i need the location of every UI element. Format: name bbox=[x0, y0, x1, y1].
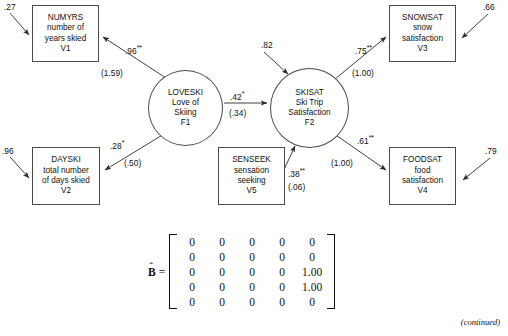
beta-matrix-equation: ˆB = 000000000000001.0000001.0000000 bbox=[148, 234, 335, 309]
estimate-value: .96 bbox=[125, 46, 137, 56]
matrix-cell-r4-c1: 0 bbox=[177, 279, 207, 294]
node-snowsat-desc1: snow bbox=[413, 23, 432, 33]
node-snowsat: SNOWSAT snow satisfaction V3 bbox=[389, 5, 456, 62]
significance-stars: * bbox=[122, 138, 125, 147]
hat-accent: ˆ bbox=[150, 261, 153, 272]
equals-sign: = bbox=[159, 266, 166, 278]
matrix-bracket-right bbox=[327, 234, 335, 309]
arrow-residual-dayski bbox=[10, 157, 29, 178]
path-label-senseek-to-skisat-se: (.06) bbox=[288, 182, 305, 192]
node-senseek-desc2: seeking bbox=[237, 176, 265, 186]
estimate-value: .42 bbox=[230, 92, 242, 102]
node-foodsat-desc2: satisfaction bbox=[402, 176, 443, 186]
matrix-cell-r5-c1: 0 bbox=[177, 294, 207, 309]
path-label-loveski-to-dayski-estimate: .28* bbox=[110, 138, 124, 151]
matrix-cell-r5-c2: 0 bbox=[207, 294, 237, 309]
path-label-loveski-to-skisat-estimate: .42* bbox=[230, 89, 244, 102]
matrix-row: 00000 bbox=[177, 294, 327, 309]
matrix-cell-r5-c3: 0 bbox=[237, 294, 267, 309]
significance-stars: ** bbox=[367, 43, 372, 52]
residual-label-foodsat: .79 bbox=[485, 146, 497, 156]
significance-stars: ** bbox=[137, 43, 142, 52]
path-label-skisat-to-snowsat-se: (1.00) bbox=[352, 68, 374, 78]
matrix-row: 00000 bbox=[177, 234, 327, 249]
matrix-row: 00001.00 bbox=[177, 279, 327, 294]
matrix-cell-r3-c2: 0 bbox=[207, 264, 237, 279]
residual-label-skisat: .82 bbox=[261, 40, 273, 50]
path-label-loveski-to-dayski-se: (.50) bbox=[124, 158, 141, 168]
path-label-loveski-to-numyrs-estimate: .96** bbox=[125, 43, 142, 56]
matrix-cell-r4-c5: 1.00 bbox=[297, 279, 327, 294]
path-label-senseek-to-skisat-estimate: .38** bbox=[288, 166, 305, 179]
residual-label-numyrs: .27 bbox=[4, 2, 16, 12]
beta-matrix-body: 000000000000001.0000001.0000000 bbox=[177, 234, 327, 309]
significance-stars: * bbox=[242, 89, 245, 98]
node-senseek-name: SENSEEK bbox=[232, 155, 271, 165]
matrix-cell-r4-c4: 0 bbox=[267, 279, 297, 294]
beta-matrix-symbol: ˆB bbox=[148, 266, 156, 278]
matrix-cell-r3-c5: 1.00 bbox=[297, 264, 327, 279]
node-dayski-desc1: total number bbox=[43, 166, 89, 176]
node-dayski-desc2: of days skied bbox=[42, 176, 90, 186]
path-label-loveski-to-skisat-se: (.34) bbox=[229, 108, 246, 118]
matrix-cell-r4-c3: 0 bbox=[237, 279, 267, 294]
path-label-skisat-to-foodsat-se: (1.00) bbox=[331, 158, 353, 168]
node-numyrs-desc1: number of bbox=[47, 23, 84, 33]
path-label-loveski-to-numyrs-se: (1.59) bbox=[101, 68, 123, 78]
beta-matrix-table: 000000000000001.0000001.0000000 bbox=[177, 234, 327, 309]
matrix-cell-r3-c4: 0 bbox=[267, 264, 297, 279]
node-senseek-desc1: sensation bbox=[234, 166, 269, 176]
matrix-cell-r1-c5: 0 bbox=[297, 234, 327, 249]
arrow-residual-snowsat bbox=[462, 14, 488, 38]
estimate-value: .38 bbox=[288, 169, 300, 179]
node-dayski: DAYSKI total number of days skied V2 bbox=[32, 147, 100, 205]
node-numyrs-id: V1 bbox=[60, 44, 70, 54]
node-loveski-id: F1 bbox=[181, 118, 191, 128]
matrix-cell-r2-c1: 0 bbox=[177, 249, 207, 264]
node-numyrs: NUMYRS number of years skied V1 bbox=[32, 5, 99, 62]
node-skisat-id: F2 bbox=[305, 118, 315, 128]
matrix-cell-r2-c2: 0 bbox=[207, 249, 237, 264]
matrix-cell-r2-c4: 0 bbox=[267, 249, 297, 264]
node-skisat-desc2: Satisfaction bbox=[288, 108, 330, 118]
node-numyrs-desc2: years skied bbox=[45, 34, 86, 44]
node-foodsat: FOODSAT food satisfaction V4 bbox=[389, 147, 456, 205]
continued-note: (continued) bbox=[461, 317, 500, 327]
node-skisat-desc1: Ski Trip bbox=[296, 98, 323, 108]
matrix-cell-r2-c5: 0 bbox=[297, 249, 327, 264]
matrix-cell-r2-c3: 0 bbox=[237, 249, 267, 264]
arrow-residual-foodsat bbox=[463, 158, 490, 180]
matrix-cell-r1-c3: 0 bbox=[237, 234, 267, 249]
node-numyrs-name: NUMYRS bbox=[48, 13, 83, 23]
path-label-skisat-to-snowsat-estimate: .75** bbox=[355, 43, 372, 56]
matrix-cell-r5-c4: 0 bbox=[267, 294, 297, 309]
node-loveski: LOVESKI Love of Skiing F1 bbox=[148, 70, 223, 146]
residual-label-dayski: .96 bbox=[2, 146, 14, 156]
node-senseek-id: V5 bbox=[246, 186, 256, 196]
matrix-row: 00000 bbox=[177, 249, 327, 264]
significance-stars: ** bbox=[369, 133, 374, 142]
node-dayski-name: DAYSKI bbox=[51, 155, 80, 165]
matrix-row: 00001.00 bbox=[177, 264, 327, 279]
matrix-cell-r4-c2: 0 bbox=[207, 279, 237, 294]
node-senseek: SENSEEK sensation seeking V5 bbox=[218, 147, 285, 205]
arrow-residual-skisat bbox=[264, 52, 288, 74]
matrix-cell-r1-c1: 0 bbox=[177, 234, 207, 249]
path-label-skisat-to-foodsat-estimate: .61** bbox=[357, 133, 374, 146]
matrix-bracket-left bbox=[169, 234, 177, 309]
node-snowsat-id: V3 bbox=[417, 44, 427, 54]
node-skisat: SKISAT Ski Trip Satisfaction F2 bbox=[270, 68, 349, 148]
node-loveski-name: LOVESKI bbox=[168, 88, 203, 98]
estimate-value: .61 bbox=[357, 136, 369, 146]
arrow-residual-numyrs bbox=[10, 13, 29, 35]
matrix-cell-r1-c4: 0 bbox=[267, 234, 297, 249]
figure-canvas: NUMYRS number of years skied V1 DAYSKI t… bbox=[0, 0, 508, 336]
node-skisat-name: SKISAT bbox=[295, 88, 324, 98]
matrix-cell-r3-c1: 0 bbox=[177, 264, 207, 279]
matrix-cell-r3-c3: 0 bbox=[237, 264, 267, 279]
significance-stars: ** bbox=[300, 166, 305, 175]
residual-label-snowsat: .66 bbox=[483, 2, 495, 12]
node-foodsat-id: V4 bbox=[417, 186, 427, 196]
node-dayski-id: V2 bbox=[61, 186, 71, 196]
matrix-cell-r1-c2: 0 bbox=[207, 234, 237, 249]
